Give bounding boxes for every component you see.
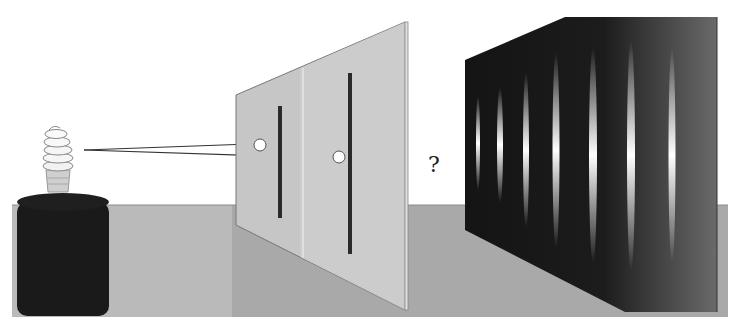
- question-mark: ?: [428, 152, 440, 177]
- hole-left: [254, 139, 266, 151]
- lightbulb-icon: [43, 126, 73, 192]
- hole-right: [333, 151, 345, 163]
- light-source: [17, 126, 109, 316]
- base-cylinder: [17, 193, 109, 316]
- double-slit-diagram: ?: [0, 0, 748, 323]
